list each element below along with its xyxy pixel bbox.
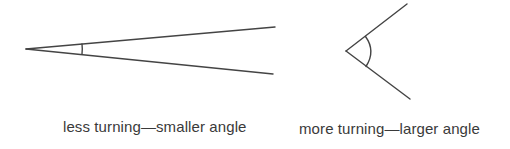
large-angle-upper-ray	[346, 4, 407, 51]
small-angle-caption: less turning—smaller angle	[63, 119, 247, 134]
small-angle-upper-ray	[26, 27, 275, 49]
large-angle-arc-mark	[366, 37, 371, 67]
large-angle-figure	[346, 4, 410, 99]
large-angle-caption: more turning—larger angle	[299, 121, 480, 136]
small-angle-lower-ray	[26, 49, 273, 74]
small-angle-figure	[26, 27, 275, 74]
large-angle-lower-ray	[346, 51, 410, 99]
